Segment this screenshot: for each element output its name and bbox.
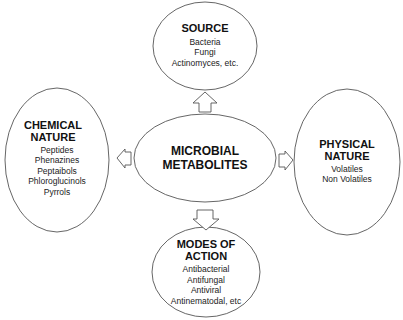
arrow-up-icon <box>193 92 217 112</box>
source-item: Fungi <box>194 47 215 58</box>
source-item: Bacteria <box>189 37 220 48</box>
chemical-nature-title: CHEMICAL <box>24 119 82 131</box>
center-title-line: MICROBIAL <box>171 144 239 158</box>
source-title: SOURCE <box>181 22 228 34</box>
source-item: Actinomyces, etc. <box>172 58 239 69</box>
chemical-nature-item: Peptides <box>40 145 73 156</box>
modes-of-action-item: Antinematodal, etc <box>171 296 241 307</box>
arrow-right-icon <box>279 151 293 170</box>
arrow-left-icon <box>117 149 131 168</box>
chemical-nature-item: Phloroglucinols <box>28 176 86 187</box>
physical-nature-title: NATURE <box>324 150 369 162</box>
center-title-line: METABOLITES <box>162 158 247 172</box>
modes-of-action-item: Antiviral <box>191 285 221 296</box>
modes-of-action-title: MODES OF <box>177 238 236 250</box>
chemical-nature-item: Peptaibols <box>37 166 77 177</box>
chemical-nature-node: CHEMICAL NATURE Peptides Phenazines Pept… <box>10 112 104 204</box>
modes-of-action-node: MODES OF ACTION Antibacterial Antifungal… <box>152 236 260 308</box>
modes-of-action-item: Antibacterial <box>183 264 230 275</box>
center-node: MICROBIAL METABOLITES <box>140 136 270 180</box>
modes-of-action-title: ACTION <box>185 250 227 262</box>
physical-nature-title: PHYSICAL <box>319 138 375 150</box>
source-node: SOURCE Bacteria Fungi Actinomyces, etc. <box>153 10 257 80</box>
arrow-down-icon <box>193 210 219 230</box>
physical-nature-node: PHYSICAL NATURE Volatiles Non Volatiles <box>300 135 394 187</box>
modes-of-action-item: Antifungal <box>187 275 225 286</box>
physical-nature-item: Volatiles <box>331 164 363 175</box>
chemical-nature-item: Phenazines <box>35 155 79 166</box>
physical-nature-item: Non Volatiles <box>322 174 372 185</box>
chemical-nature-title: NATURE <box>30 131 75 143</box>
chemical-nature-item: Pyrrols <box>44 187 70 198</box>
